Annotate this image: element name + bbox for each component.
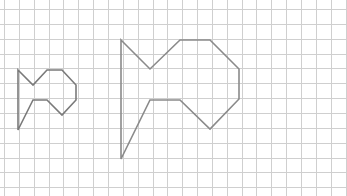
grid-diagram — [0, 0, 347, 196]
grid-lines — [0, 0, 347, 196]
small-shape — [18, 70, 76, 130]
